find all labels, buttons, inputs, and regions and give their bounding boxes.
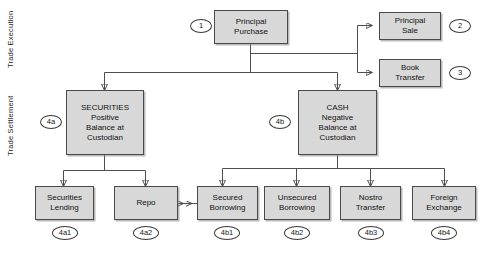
node-line: Borrowing [278, 203, 317, 213]
marker-secured-borrowing: 4b1 [214, 226, 240, 240]
node-repo[interactable]: Repo [114, 186, 178, 220]
node-foreign-exchange[interactable]: Foreign Exchange [412, 186, 476, 220]
node-line: Transfer [356, 203, 386, 213]
marker-label: 2 [458, 22, 462, 30]
marker-label: 3 [458, 69, 462, 77]
node-line: Borrowing [209, 203, 245, 213]
node-principal-purchase[interactable]: Principal Purchase [214, 10, 288, 44]
node-line: CASH [319, 103, 357, 113]
marker-securities-balance: 4a [40, 115, 62, 129]
node-unsecured-borrowing[interactable]: Unsecured Borrowing [264, 186, 330, 220]
node-principal-sale[interactable]: Principal Sale [379, 12, 441, 40]
node-line: Transfer [395, 73, 425, 83]
marker-label: 4a1 [59, 229, 72, 237]
marker-label: 4b3 [365, 229, 378, 237]
node-line: Negative [319, 113, 357, 123]
node-securities-balance[interactable]: SECURITIES Positive Balance at Custodian [66, 90, 144, 155]
marker-label: 4a [47, 118, 55, 126]
node-line: Principal [395, 16, 426, 26]
node-line: Sale [395, 26, 426, 36]
marker-label: 4b4 [438, 229, 451, 237]
marker-label: 4b [276, 118, 284, 126]
node-line: Secured [209, 193, 245, 203]
node-book-transfer[interactable]: Book Transfer [379, 59, 441, 87]
node-line: SECURITIES [81, 103, 129, 113]
marker-label: 4b2 [291, 229, 304, 237]
node-cash-balance[interactable]: CASH Negative Balance at Custodian [298, 90, 377, 155]
node-line: Securities [47, 193, 82, 203]
marker-label: 4b1 [221, 229, 234, 237]
marker-repo: 4a2 [133, 226, 159, 240]
marker-label: 1 [199, 22, 203, 30]
marker-unsecured-borrowing: 4b2 [284, 226, 310, 240]
node-line: Nostro [356, 193, 386, 203]
marker-book-transfer: 3 [449, 66, 471, 80]
node-line: Principal [234, 17, 268, 27]
node-nostro-transfer[interactable]: Nostro Transfer [340, 186, 401, 220]
node-line: Exchange [426, 203, 462, 213]
node-line: Balance at [319, 123, 357, 133]
marker-label: 4a2 [140, 229, 153, 237]
node-securities-lending[interactable]: Securities Lending [35, 186, 94, 220]
marker-cash-balance: 4b [269, 115, 291, 129]
node-line: Balance at [81, 123, 129, 133]
marker-foreign-exchange: 4b4 [431, 226, 457, 240]
marker-nostro-transfer: 4b3 [358, 226, 384, 240]
marker-securities-lending: 4a1 [52, 226, 78, 240]
node-line: Custodian [319, 133, 357, 143]
flowchart-diagram: Trade Execution Trade Settlement [0, 0, 491, 256]
node-line: Unsecured [278, 193, 317, 203]
node-line: Purchase [234, 27, 268, 37]
marker-principal-sale: 2 [449, 19, 471, 33]
node-line: Positive [81, 113, 129, 123]
node-line: Foreign [426, 193, 462, 203]
node-line: Lending [47, 203, 82, 213]
node-line: Repo [136, 198, 155, 208]
node-secured-borrowing[interactable]: Secured Borrowing [197, 186, 258, 220]
node-line: Custodian [81, 133, 129, 143]
marker-principal-purchase: 1 [190, 19, 212, 33]
node-line: Book [395, 63, 425, 73]
